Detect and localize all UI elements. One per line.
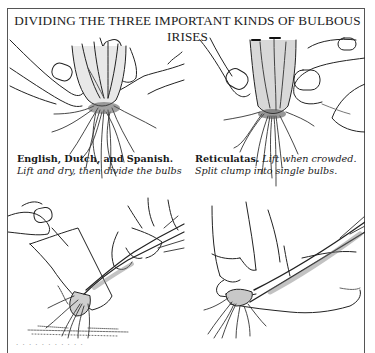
caption-italic-lift-when-crowded: Lift when crowded. — [262, 153, 356, 164]
caption-reticulatas: Reticulatas. Lift when crowded. Split cl… — [195, 153, 356, 177]
spade-lifting-drawing-icon — [8, 192, 190, 340]
illustration-spade-lifting — [8, 192, 190, 340]
caption-english-dutch-spanish: English, Dutch, and Spanish. Lift and dr… — [17, 153, 182, 177]
caption-italic-lift-and-dry: Lift and dry, then divide the bulbs — [17, 165, 182, 176]
caption-bold-english-dutch-spanish: English, Dutch, and Spanish. — [17, 153, 173, 164]
rhizome-pulling-drawing-icon — [190, 192, 365, 340]
caption-bold-reticulatas: Reticulatas. — [195, 153, 259, 164]
caption-italic-split-clump: Split clump into single bulbs. — [195, 165, 337, 176]
illustration-rhizome-pulling — [190, 192, 365, 340]
bottom-caption-partial: · · · · · · · · · · · — [16, 341, 84, 349]
